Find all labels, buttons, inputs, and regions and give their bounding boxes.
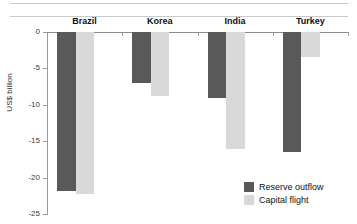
legend-label: Capital flight bbox=[259, 196, 309, 205]
bar-india-reserve-outflow bbox=[208, 32, 227, 98]
y-tick-mark bbox=[43, 214, 47, 215]
y-tick-label: -15 bbox=[0, 137, 40, 145]
bar-brazil-reserve-outflow bbox=[57, 32, 76, 191]
x-category-label-turkey: Turkey bbox=[273, 16, 348, 26]
y-tick-label: 0 bbox=[0, 28, 40, 36]
legend-item: Reserve outflow bbox=[244, 181, 324, 193]
x-tick-mark bbox=[348, 32, 349, 36]
x-category-label-brazil: Brazil bbox=[47, 16, 122, 26]
legend-swatch-icon bbox=[244, 195, 254, 205]
y-tick-label: -10 bbox=[0, 101, 40, 109]
bar-turkey-capital-flight bbox=[301, 32, 320, 57]
x-category-label-korea: Korea bbox=[122, 16, 197, 26]
legend-swatch-icon bbox=[244, 182, 254, 192]
bar-india-capital-flight bbox=[226, 32, 245, 149]
bar-korea-capital-flight bbox=[151, 32, 170, 96]
bar-korea-reserve-outflow bbox=[132, 32, 151, 83]
bar-turkey-reserve-outflow bbox=[283, 32, 302, 152]
y-tick-label: -20 bbox=[0, 174, 40, 182]
chart-legend: Reserve outflowCapital flight bbox=[244, 181, 324, 207]
y-tick-label: -5 bbox=[0, 64, 40, 72]
y-tick-label: -25 bbox=[0, 210, 40, 218]
legend-label: Reserve outflow bbox=[259, 183, 324, 192]
chart-figure: US$ billion 0-5-10-15-20-25 BrazilKoreaI… bbox=[0, 0, 357, 224]
legend-item: Capital flight bbox=[244, 194, 324, 206]
bar-brazil-capital-flight bbox=[76, 32, 95, 194]
x-category-label-india: India bbox=[198, 16, 273, 26]
divider-top bbox=[10, 3, 348, 4]
